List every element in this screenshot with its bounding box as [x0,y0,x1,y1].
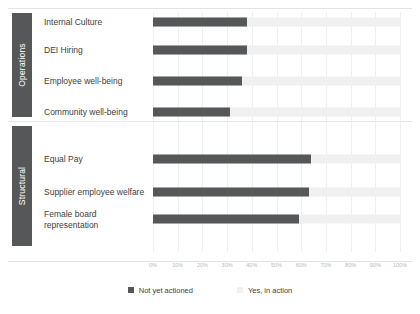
x-axis-tick-label: 0% [149,262,157,268]
bar-segment-not-yet-actioned [153,188,309,197]
x-axis-tick-label: 90% [370,262,381,268]
bar-segment-not-yet-actioned [153,108,230,117]
category-label: Community well-being [44,107,152,118]
bar-track-yes-in-action [153,46,400,55]
chart-row: Supplier employee welfare [0,179,420,205]
bar-track-yes-in-action [153,108,400,117]
bar-track-yes-in-action [153,18,400,27]
x-axis-tick-label: 40% [246,262,257,268]
chart-row: Internal Culture [0,9,420,35]
category-label: Equal Pay [44,154,152,165]
legend-label: Yes, in action [248,286,292,295]
chart-row: Community well-being [0,99,420,125]
x-axis-tick-label: 30% [222,262,233,268]
bar-track-yes-in-action [153,77,400,86]
bar-segment-not-yet-actioned [153,155,311,164]
category-label: Female board representation [44,209,152,230]
chart-legend: Not yet actionedYes, in action [0,283,420,297]
plot-area: Internal CultureDEI HiringEmployee well-… [0,0,420,262]
x-axis-tick-label: 60% [296,262,307,268]
chart-row: DEI Hiring [0,37,420,63]
bar-segment-not-yet-actioned [153,18,247,27]
x-axis: 0%10%20%30%40%50%60%70%80%90%100% [0,262,420,276]
x-axis-tick-label: 20% [197,262,208,268]
legend-swatch-icon [128,287,134,293]
bar-segment-not-yet-actioned [153,215,299,224]
x-axis-tick-label: 100% [393,262,407,268]
category-label: DEI Hiring [44,45,152,56]
x-axis-tick-label: 10% [172,262,183,268]
legend-item[interactable]: Not yet actioned [128,286,193,295]
legend-label: Not yet actioned [139,286,193,295]
bar-segment-not-yet-actioned [153,46,247,55]
category-label: Supplier employee welfare [44,187,152,198]
bar-segment-not-yet-actioned [153,77,242,86]
legend-item[interactable]: Yes, in action [237,286,292,295]
chart-row: Equal Pay [0,146,420,172]
x-axis-tick-label: 70% [320,262,331,268]
bar-track-yes-in-action [153,188,400,197]
bar-track-yes-in-action [153,155,400,164]
x-axis-tick-label: 80% [345,262,356,268]
chart-row: Female board representation [0,206,420,232]
bar-track-yes-in-action [153,215,400,224]
category-label: Employee well-being [44,76,152,87]
chart-row: Employee well-being [0,68,420,94]
category-label: Internal Culture [44,17,152,28]
x-axis-tick-label: 50% [271,262,282,268]
legend-swatch-icon [237,287,243,293]
stacked-bar-chart: Operations Structural Internal CultureDE… [0,0,420,314]
